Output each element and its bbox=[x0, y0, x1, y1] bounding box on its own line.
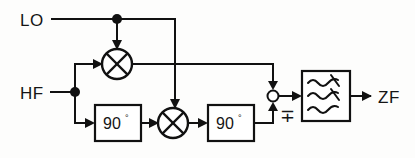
arrow-into-sum-bottom-icon bbox=[268, 102, 278, 111]
mixer-i[interactable] bbox=[102, 49, 132, 79]
lo-junction-dot bbox=[112, 14, 122, 24]
hf-input-label: HF bbox=[20, 84, 44, 103]
phase-shifter-input-label: 90 bbox=[103, 115, 121, 132]
zf-output-label: ZF bbox=[378, 88, 400, 107]
phase-shifter-output-degree-symbol: ° bbox=[238, 113, 242, 123]
diagram-canvas: 90 ° 90 ° ∓ LO HF ZF bbox=[0, 0, 415, 158]
hf-junction-dot bbox=[70, 87, 80, 97]
phase-shifter-output-block[interactable]: 90 ° bbox=[208, 105, 254, 141]
arrow-to-zf-icon bbox=[362, 91, 372, 101]
lowpass-filter-block[interactable] bbox=[302, 71, 350, 121]
wire-hf-down-to-phase-shift bbox=[75, 92, 90, 123]
summing-node-sign-label: ∓ bbox=[280, 106, 295, 126]
arrow-into-sum-top-icon bbox=[268, 81, 278, 90]
phase-shifter-input-degree-symbol: ° bbox=[125, 113, 129, 123]
phase-shifter-output-label: 90 bbox=[216, 115, 234, 132]
arrow-into-phase-shift-output-icon bbox=[198, 118, 208, 128]
mixer-q[interactable] bbox=[158, 108, 188, 138]
wire-mixer-i-to-sum bbox=[132, 64, 273, 86]
summing-node-circle bbox=[268, 91, 279, 102]
arrow-into-filter-icon bbox=[292, 91, 302, 101]
lo-input-label: LO bbox=[20, 11, 44, 30]
phase-shifter-input-block[interactable]: 90 ° bbox=[95, 105, 141, 141]
block-diagram-figure: 90 ° 90 ° ∓ LO HF ZF bbox=[0, 0, 415, 158]
arrow-into-phase-shift-input-icon bbox=[85, 118, 95, 128]
